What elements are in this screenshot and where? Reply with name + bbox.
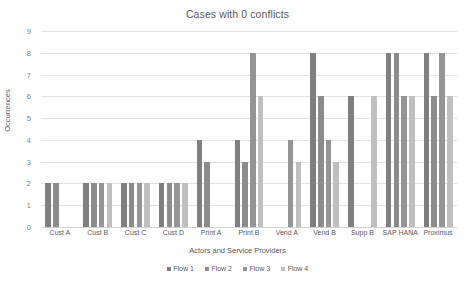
bar[interactable] — [318, 96, 324, 227]
bar[interactable] — [45, 183, 51, 227]
legend-item[interactable]: Flow 2 — [205, 265, 232, 272]
x-axis-tick-label: Proximus — [419, 229, 457, 243]
bar-slot — [356, 31, 362, 227]
y-axis-tick-label: 1 — [27, 201, 31, 210]
bar[interactable] — [159, 183, 165, 227]
bar-slot — [159, 31, 165, 227]
bar[interactable] — [235, 140, 241, 227]
bar-slot — [310, 31, 316, 227]
chart-legend: Flow 1Flow 2Flow 3Flow 4 — [0, 265, 475, 272]
bar-slot — [83, 31, 89, 227]
bar[interactable] — [447, 96, 453, 227]
bar[interactable] — [439, 53, 445, 227]
bar[interactable] — [348, 96, 354, 227]
bar[interactable] — [197, 140, 203, 227]
bar-slot — [401, 31, 407, 227]
x-axis-tick-label: Cust D — [154, 229, 192, 243]
bar-slot — [69, 31, 75, 227]
bar[interactable] — [386, 53, 392, 227]
bar[interactable] — [204, 162, 210, 227]
bar[interactable] — [144, 183, 150, 227]
legend-item[interactable]: Flow 4 — [281, 265, 308, 272]
y-axis-tick-label: 9 — [27, 27, 31, 36]
bar[interactable] — [371, 96, 377, 227]
bar[interactable] — [99, 183, 105, 227]
bar-group — [381, 31, 419, 227]
gridline — [41, 227, 457, 228]
bar[interactable] — [326, 140, 332, 227]
bar-slot — [121, 31, 127, 227]
bar-group — [79, 31, 117, 227]
bar-slot — [107, 31, 113, 227]
bar-slot — [212, 31, 218, 227]
bar-slot — [242, 31, 248, 227]
bar[interactable] — [182, 183, 188, 227]
bar[interactable] — [129, 183, 135, 227]
bar-slot — [333, 31, 339, 227]
bar-slot — [272, 31, 278, 227]
bar-slot — [250, 31, 256, 227]
bar[interactable] — [242, 162, 248, 227]
bar[interactable] — [431, 96, 437, 227]
bar-group — [268, 31, 306, 227]
legend-swatch-icon — [205, 267, 209, 271]
bar[interactable] — [288, 140, 294, 227]
bar[interactable] — [121, 183, 127, 227]
bar-slot — [386, 31, 392, 227]
bar[interactable] — [424, 53, 430, 227]
y-axis-tick-label: 5 — [27, 114, 31, 123]
y-axis-tick-label: 8 — [27, 48, 31, 57]
bar[interactable] — [83, 183, 89, 227]
x-axis-title: Actors and Service Providers — [0, 246, 475, 255]
bar-slot — [409, 31, 415, 227]
x-axis-tick-labels: Cust ACust BCust CCust DPrint APrint BVe… — [41, 229, 457, 243]
bar[interactable] — [310, 53, 316, 227]
bar[interactable] — [91, 183, 97, 227]
chart-container: Cases with 0 conflicts 0123456789 Occurr… — [0, 0, 475, 285]
bar-slot — [439, 31, 445, 227]
bar-slot — [167, 31, 173, 227]
bar[interactable] — [258, 96, 264, 227]
legend-swatch-icon — [281, 267, 285, 271]
y-axis-tick-label: 0 — [27, 223, 31, 232]
bar-group — [306, 31, 344, 227]
y-axis-tick-label: 7 — [27, 70, 31, 79]
bar-group — [154, 31, 192, 227]
bar[interactable] — [107, 183, 113, 227]
bar[interactable] — [394, 53, 400, 227]
bar-slot — [431, 31, 437, 227]
legend-item[interactable]: Flow 3 — [243, 265, 270, 272]
legend-label: Flow 4 — [288, 265, 309, 272]
bar-groups — [41, 31, 457, 227]
y-axis-tick-label: 4 — [27, 135, 31, 144]
bar[interactable] — [174, 183, 180, 227]
y-axis-tick-label: 3 — [27, 157, 31, 166]
y-axis-tick-label: 2 — [27, 179, 31, 188]
bar[interactable] — [250, 53, 256, 227]
bar[interactable] — [333, 162, 339, 227]
bar-slot — [364, 31, 370, 227]
bar[interactable] — [53, 183, 59, 227]
x-axis-tick-label: Print B — [230, 229, 268, 243]
bar-slot — [91, 31, 97, 227]
x-axis-tick-label: SAP HANA — [381, 229, 419, 243]
bar-slot — [326, 31, 332, 227]
bar-slot — [447, 31, 453, 227]
bar-slot — [137, 31, 143, 227]
bar-group — [230, 31, 268, 227]
bar-slot — [204, 31, 210, 227]
bar-slot — [220, 31, 226, 227]
bar[interactable] — [137, 183, 143, 227]
bar[interactable] — [401, 96, 407, 227]
bar-slot — [174, 31, 180, 227]
legend-label: Flow 2 — [211, 265, 232, 272]
bar-slot — [424, 31, 430, 227]
bar[interactable] — [296, 162, 302, 227]
legend-item[interactable]: Flow 1 — [167, 265, 194, 272]
bar[interactable] — [409, 96, 415, 227]
chart-title: Cases with 0 conflicts — [0, 8, 475, 20]
x-axis-tick-label: Vend A — [268, 229, 306, 243]
bar-slot — [318, 31, 324, 227]
bar[interactable] — [167, 183, 173, 227]
legend-label: Flow 3 — [250, 265, 271, 272]
